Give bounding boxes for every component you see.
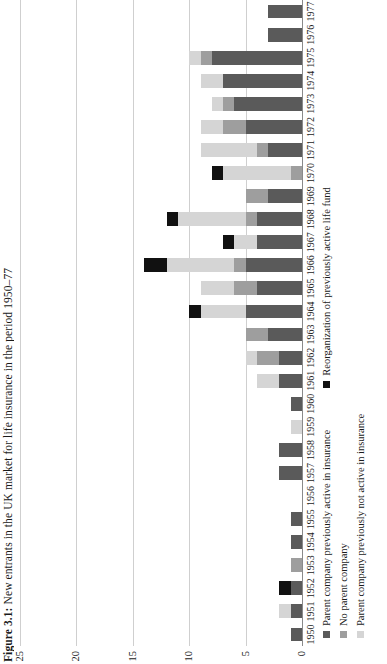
y-axis-tick-label: 20 bbox=[71, 651, 81, 662]
category-label: 1971 bbox=[306, 140, 316, 160]
bar-column[interactable]: 1950 bbox=[291, 628, 302, 642]
bar-column[interactable]: 1952 bbox=[279, 581, 302, 595]
bar-segment bbox=[279, 466, 302, 480]
category-label: 1975 bbox=[306, 48, 316, 68]
bar-segment bbox=[279, 605, 290, 619]
category-label: 1960 bbox=[306, 394, 316, 414]
legend-item[interactable]: Parent company previously active in insu… bbox=[318, 414, 335, 638]
bar-column[interactable]: 1974 bbox=[200, 74, 302, 88]
bar-segment bbox=[212, 97, 223, 111]
bar-segment bbox=[246, 328, 269, 342]
bar-segment bbox=[268, 328, 302, 342]
bar-segment bbox=[223, 74, 302, 88]
category-label: 1958 bbox=[306, 440, 316, 460]
legend-item[interactable]: Parent company previously not active in … bbox=[352, 414, 369, 638]
bar-segment bbox=[268, 143, 302, 157]
category-label: 1965 bbox=[306, 278, 316, 298]
bar-column[interactable]: 1953 bbox=[291, 558, 302, 572]
category-label: 1954 bbox=[306, 532, 316, 552]
figure-title: Figure 3.1: New entrants in the UK marke… bbox=[2, 2, 14, 662]
y-axis-tick-label: 15 bbox=[128, 651, 138, 662]
category-label: 1963 bbox=[306, 325, 316, 345]
y-axis-tick-label: 10 bbox=[184, 651, 194, 662]
bar-segment bbox=[234, 282, 257, 296]
bar-segment bbox=[201, 305, 246, 319]
bar-segment bbox=[234, 97, 302, 111]
bar-column[interactable]: 1960 bbox=[291, 397, 302, 411]
bar-segment bbox=[291, 581, 302, 595]
bar-segment bbox=[246, 305, 302, 319]
bar-column[interactable]: 1972 bbox=[200, 120, 302, 134]
bar-segment bbox=[291, 397, 302, 411]
category-label: 1950 bbox=[306, 624, 316, 644]
legend-item[interactable]: No parent company bbox=[335, 414, 352, 638]
bar-segment bbox=[246, 189, 269, 203]
bar-column[interactable]: 1973 bbox=[212, 97, 302, 111]
bar-segment bbox=[257, 374, 280, 388]
bar-column[interactable]: 1954 bbox=[291, 535, 302, 549]
bar-segment bbox=[223, 97, 234, 111]
bar-segment bbox=[201, 282, 235, 296]
bar-segment bbox=[257, 282, 302, 296]
bar-column[interactable]: 1976 bbox=[268, 28, 302, 42]
legend-swatch-icon bbox=[323, 381, 330, 388]
legend-label: Parent company previously active in insu… bbox=[321, 430, 332, 626]
legend-swatch-icon bbox=[357, 631, 364, 638]
bar-segment bbox=[291, 166, 302, 180]
category-label: 1974 bbox=[306, 71, 316, 91]
category-label: 1968 bbox=[306, 209, 316, 229]
bar-column[interactable]: 1957 bbox=[279, 466, 302, 480]
bar-segment bbox=[257, 143, 268, 157]
axis-baseline bbox=[302, 0, 303, 646]
category-label: 1959 bbox=[306, 417, 316, 437]
y-axis-tick-label: 5 bbox=[241, 651, 251, 656]
bar-column[interactable]: 1966 bbox=[144, 258, 302, 272]
bar-column[interactable]: 1962 bbox=[246, 351, 302, 365]
bar-column[interactable]: 1969 bbox=[246, 189, 302, 203]
figure-number: Figure 3.1: bbox=[2, 607, 14, 662]
bar-segment bbox=[291, 628, 302, 642]
chart-legend: Parent company previously active in insu… bbox=[318, 0, 382, 638]
legend-label: No parent company bbox=[338, 543, 349, 626]
category-label: 1957 bbox=[306, 463, 316, 483]
category-label: 1970 bbox=[306, 163, 316, 183]
figure-rotated-container: Figure 3.1: New entrants in the UK marke… bbox=[0, 0, 387, 664]
legend-label: Parent company previously not active in … bbox=[355, 414, 366, 626]
bar-segment bbox=[257, 212, 302, 226]
bar-column[interactable]: 1961 bbox=[257, 374, 302, 388]
bar-column[interactable]: 1975 bbox=[189, 51, 302, 65]
bar-column[interactable]: 1967 bbox=[223, 235, 302, 249]
bar-segment bbox=[291, 535, 302, 549]
bar-segment bbox=[291, 512, 302, 526]
bar-column[interactable]: 1965 bbox=[200, 282, 302, 296]
bar-segment bbox=[291, 420, 302, 434]
legend-item[interactable]: Reorganization of previously active life… bbox=[318, 187, 335, 387]
bar-segment bbox=[212, 51, 302, 65]
bar-column[interactable]: 1955 bbox=[291, 512, 302, 526]
bar-column[interactable]: 1968 bbox=[167, 212, 302, 226]
category-label: 1967 bbox=[306, 232, 316, 252]
bar-column[interactable]: 1970 bbox=[212, 166, 302, 180]
bar-segment bbox=[246, 351, 257, 365]
bar-segment bbox=[291, 558, 302, 572]
bar-segment bbox=[246, 120, 302, 134]
bar-column[interactable]: 1958 bbox=[279, 443, 302, 457]
bar-segment bbox=[291, 605, 302, 619]
bar-segment bbox=[223, 235, 234, 249]
gridline-20 bbox=[76, 0, 77, 646]
bar-column[interactable]: 1964 bbox=[189, 305, 302, 319]
category-label: 1973 bbox=[306, 94, 316, 114]
bar-column[interactable]: 1971 bbox=[200, 143, 302, 157]
bar-segment bbox=[178, 212, 246, 226]
chart-page: Figure 3.1: New entrants in the UK marke… bbox=[0, 0, 387, 664]
category-label: 1969 bbox=[306, 186, 316, 206]
bar-segment bbox=[234, 235, 257, 249]
bar-segment bbox=[189, 51, 200, 65]
bar-column[interactable]: 1977 bbox=[268, 5, 302, 19]
plot-area: 0510152025195019511952195319541955195619… bbox=[20, 0, 302, 646]
category-label: 1953 bbox=[306, 555, 316, 575]
bar-column[interactable]: 1963 bbox=[246, 328, 302, 342]
category-label: 1964 bbox=[306, 301, 316, 321]
bar-column[interactable]: 1959 bbox=[291, 420, 302, 434]
bar-column[interactable]: 1951 bbox=[279, 605, 302, 619]
